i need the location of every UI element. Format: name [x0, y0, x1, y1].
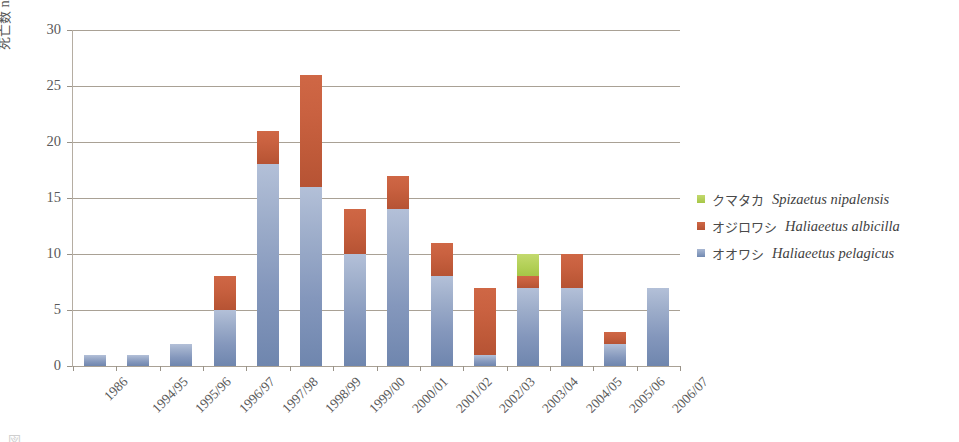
bar-segment-red	[344, 209, 366, 254]
y-axis-title-en: number of deaths	[0, 0, 12, 7]
bar-stack	[257, 30, 279, 366]
x-tick-label: 2003/04	[539, 374, 582, 417]
figure-caption-sliver: 図	[8, 430, 608, 442]
y-tick-label: 5	[31, 302, 61, 317]
y-tick-label: 10	[31, 246, 61, 261]
bar-segment-blue	[127, 355, 149, 366]
bar-segment-red	[517, 276, 539, 287]
y-tick-label: 15	[31, 190, 61, 205]
legend-swatch-blue	[697, 249, 705, 257]
bar-segment-blue	[431, 276, 453, 366]
x-tick-label: 2001/02	[452, 374, 495, 417]
bar-segment-green	[517, 254, 539, 276]
y-tick-label: 20	[31, 134, 61, 149]
legend-item[interactable]: オジロワシHaliaeetus albicilla	[697, 217, 952, 235]
y-tick-label: 30	[31, 22, 61, 37]
bar-series-container	[73, 30, 680, 366]
bar-stack	[647, 30, 669, 366]
bar-stack	[561, 30, 583, 366]
legend-label-jp: オジロワシ	[712, 217, 777, 236]
legend-label-jp: オオワシ	[712, 244, 764, 263]
bar-segment-red	[431, 243, 453, 277]
x-tick-label: 1994/95	[149, 374, 192, 417]
bar-segment-red	[214, 276, 236, 310]
bar-segment-blue	[647, 288, 669, 366]
bar-stack	[344, 30, 366, 366]
y-axis-title: 死亡数 number of deaths	[0, 0, 13, 50]
legend-item[interactable]: クマタカSpizaetus nipalensis	[697, 190, 952, 208]
x-tick-label: 1999/00	[366, 374, 409, 417]
x-tick-label: 2004/05	[583, 374, 626, 417]
bar-stack	[214, 30, 236, 366]
bar-stack	[604, 30, 626, 366]
bar-segment-blue	[84, 355, 106, 366]
bar-segment-red	[387, 176, 409, 210]
bar-segment-blue	[170, 344, 192, 366]
chart-figure: 死亡数 number of deaths 051015202530 198619…	[0, 0, 959, 442]
x-tick-label: 1998/99	[322, 374, 365, 417]
legend-label-jp: クマタカ	[712, 190, 764, 209]
bar-segment-blue	[257, 164, 279, 366]
legend-label-scientific: Spizaetus nipalensis	[772, 191, 889, 208]
bar-segment-blue	[474, 355, 496, 366]
bar-stack	[387, 30, 409, 366]
bar-segment-red	[300, 75, 322, 187]
legend-swatch-green	[697, 195, 705, 203]
x-tick-label: 2006/07	[669, 374, 712, 417]
x-tick-label: 1996/97	[236, 374, 279, 417]
bar-stack	[474, 30, 496, 366]
bar-stack	[127, 30, 149, 366]
bar-segment-red	[604, 332, 626, 343]
bar-segment-blue	[517, 288, 539, 366]
bar-segment-red	[257, 131, 279, 165]
bar-segment-blue	[214, 310, 236, 366]
legend-label-scientific: Haliaeetus albicilla	[785, 218, 900, 235]
bar-stack	[84, 30, 106, 366]
bar-segment-blue	[387, 209, 409, 366]
bar-stack	[431, 30, 453, 366]
bar-segment-blue	[344, 254, 366, 366]
x-tick-label: 2000/01	[409, 374, 452, 417]
x-tick-label: 2002/03	[496, 374, 539, 417]
bar-stack	[170, 30, 192, 366]
x-tick-label: 1986	[101, 374, 131, 404]
bar-segment-red	[474, 288, 496, 355]
x-tick-label: 1997/98	[279, 374, 322, 417]
chart-legend: クマタカSpizaetus nipalensisオジロワシHaliaeetus …	[697, 190, 952, 271]
x-tick-label: 1995/96	[192, 374, 235, 417]
bar-segment-blue	[561, 288, 583, 366]
x-tick-label: 2005/06	[626, 374, 669, 417]
legend-label-scientific: Haliaeetus pelagicus	[772, 245, 894, 262]
bar-stack	[300, 30, 322, 366]
bar-segment-blue	[300, 187, 322, 366]
legend-item[interactable]: オオワシHaliaeetus pelagicus	[697, 244, 952, 262]
legend-swatch-red	[697, 222, 705, 230]
bar-segment-blue	[604, 344, 626, 366]
bar-segment-red	[561, 254, 583, 288]
y-tick-label: 25	[31, 78, 61, 93]
y-axis-title-jp: 死亡数	[0, 11, 12, 50]
bar-stack	[517, 30, 539, 366]
